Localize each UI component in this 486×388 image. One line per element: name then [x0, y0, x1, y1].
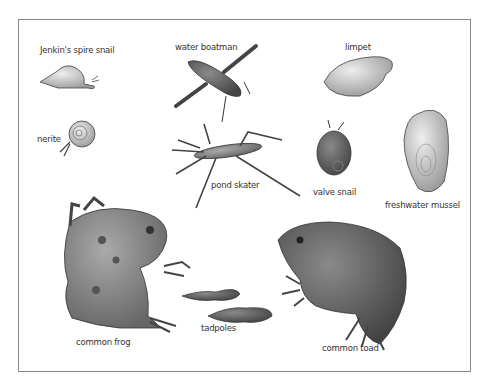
label-valve-snail: valve snail: [313, 187, 356, 197]
label-limpet: limpet: [345, 42, 371, 52]
label-tadpoles: tadpoles: [201, 323, 236, 333]
label-nerite: nerite: [37, 134, 61, 144]
label-pond-skater: pond skater: [211, 180, 259, 190]
valve-snail-drawing: [317, 120, 351, 175]
common-toad-drawing: [278, 222, 406, 350]
label-common-toad: common toad: [322, 343, 379, 353]
pond-skater-drawing: [172, 124, 300, 208]
animals-illustration: [0, 0, 486, 388]
freshwater-mussel-drawing: [404, 110, 449, 192]
tadpoles-drawing: [182, 289, 272, 322]
limpet-drawing: [324, 57, 392, 97]
label-jenkins-spire-snail: Jenkin's spire snail: [40, 45, 114, 55]
water-boatman-drawing: [176, 46, 256, 122]
jenkins-spire-snail-drawing: [40, 66, 99, 89]
label-freshwater-mussel: freshwater mussel: [385, 200, 460, 210]
common-frog-drawing: [64, 198, 190, 332]
nerite-drawing: [60, 121, 95, 156]
label-common-frog: common frog: [76, 337, 130, 347]
label-water-boatman: water boatman: [175, 42, 237, 52]
